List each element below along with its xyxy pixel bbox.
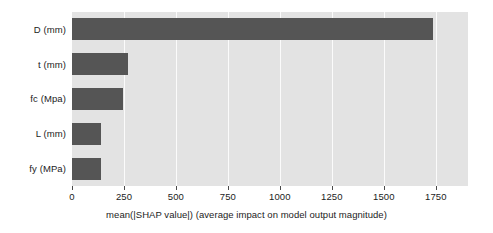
x-tick-mark-250 [124,186,125,190]
shap-feature-importance-chart: D (mm)t (mm)fc (Mpa)L (mm)fy (MPa) 02505… [0,0,493,233]
x-tick-mark-750 [228,186,229,190]
x-tick-mark-500 [176,186,177,190]
bar-row [72,12,468,47]
y-tick-label-fy: fy (MPa) [29,151,66,186]
x-axis: 02505007501000125015001750 [72,186,468,208]
bar-row [72,116,468,151]
bar-row [72,151,468,186]
y-tick-label-L: L (mm) [36,116,66,151]
x-tick-mark-1500 [384,186,385,190]
bar-L [72,123,101,145]
bar-D [72,18,433,40]
x-axis-title: mean(|SHAP value|) (average impact on mo… [0,209,493,220]
x-tick-label-1250: 1250 [321,191,343,202]
x-tick-label-750: 750 [220,191,236,202]
x-tick-mark-1750 [436,186,437,190]
y-tick-label-t: t (mm) [38,47,66,82]
y-axis-tick-labels: D (mm)t (mm)fc (Mpa)L (mm)fy (MPa) [0,12,66,186]
bar-row [72,82,468,117]
bar-fy [72,158,101,180]
y-tick-label-fc: fc (Mpa) [30,82,66,117]
plot-area [72,12,468,186]
bar-fc [72,88,123,110]
x-tick-mark-1000 [280,186,281,190]
y-tick-label-D: D (mm) [34,12,66,47]
x-tick-label-1500: 1500 [373,191,395,202]
x-tick-label-250: 250 [116,191,132,202]
bar-row [72,47,468,82]
x-tick-label-1000: 1000 [269,191,291,202]
x-tick-mark-0 [72,186,73,190]
x-tick-label-0: 0 [69,191,74,202]
bar-t [72,53,128,75]
x-tick-label-1750: 1750 [425,191,447,202]
x-tick-label-500: 500 [168,191,184,202]
x-tick-mark-1250 [332,186,333,190]
